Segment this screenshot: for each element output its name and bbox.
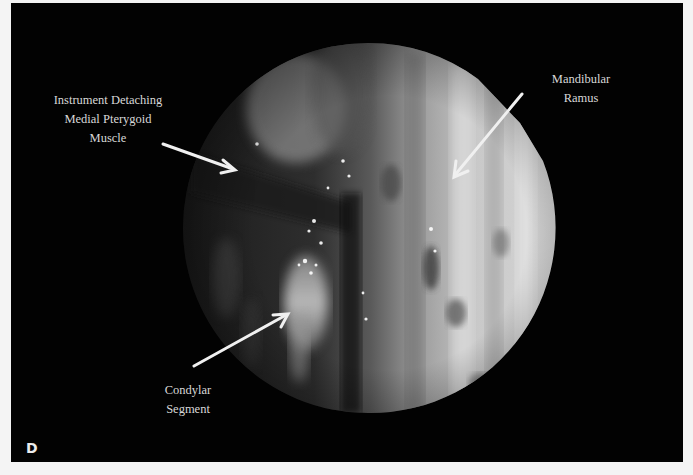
figure-panel: Instrument Detaching Medial Pterygoid Mu… bbox=[11, 3, 683, 462]
label-line: Segment bbox=[148, 400, 228, 419]
label-line: Condylar bbox=[148, 381, 228, 400]
label-line: Muscle bbox=[33, 129, 183, 148]
label-line: Mandibular bbox=[536, 70, 626, 89]
label-instrument: Instrument Detaching Medial Pterygoid Mu… bbox=[33, 91, 183, 148]
label-line: Ramus bbox=[536, 89, 626, 108]
label-line: Medial Pterygoid bbox=[33, 110, 183, 129]
label-line: Instrument Detaching bbox=[33, 91, 183, 110]
panel-label: D bbox=[26, 440, 38, 456]
label-condyle: Condylar Segment bbox=[148, 381, 228, 419]
label-ramus: Mandibular Ramus bbox=[536, 70, 626, 108]
